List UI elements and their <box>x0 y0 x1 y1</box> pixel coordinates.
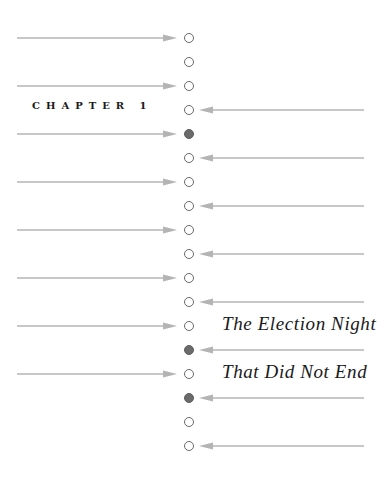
timeline-row <box>0 146 386 170</box>
timeline-row <box>0 410 386 434</box>
open-circle-icon <box>184 369 194 379</box>
arrow-right-icon <box>17 33 177 43</box>
timeline-row <box>0 386 386 410</box>
chapter-title-line-1: The Election Night <box>222 313 376 335</box>
open-circle-icon <box>184 81 194 91</box>
arrow-left-icon <box>199 201 364 211</box>
filled-circle-icon <box>184 129 194 139</box>
arrow-right-icon <box>17 273 177 283</box>
timeline-row <box>0 74 386 98</box>
arrow-right-icon <box>17 129 177 139</box>
timeline-row <box>0 218 386 242</box>
arrow-right-icon <box>17 369 177 379</box>
timeline-row <box>0 194 386 218</box>
arrow-left-icon <box>199 297 364 307</box>
open-circle-icon <box>184 225 194 235</box>
arrow-left-icon <box>199 345 364 355</box>
open-circle-icon <box>184 273 194 283</box>
arrow-right-icon <box>17 81 177 91</box>
open-circle-icon <box>184 321 194 331</box>
open-circle-icon <box>184 201 194 211</box>
open-circle-icon <box>184 33 194 43</box>
filled-circle-icon <box>184 345 194 355</box>
timeline-row <box>0 338 386 362</box>
filled-circle-icon <box>184 393 194 403</box>
arrow-left-icon <box>199 105 364 115</box>
open-circle-icon <box>184 441 194 451</box>
timeline-row <box>0 266 386 290</box>
chapter-label: CHAPTER 1 <box>32 100 153 111</box>
timeline-row <box>0 290 386 314</box>
timeline-row <box>0 242 386 266</box>
timeline-row <box>0 170 386 194</box>
open-circle-icon <box>184 105 194 115</box>
timeline-row <box>0 434 386 458</box>
arrow-right-icon <box>17 321 177 331</box>
arrow-left-icon <box>199 393 364 403</box>
open-circle-icon <box>184 249 194 259</box>
arrow-right-icon <box>17 177 177 187</box>
arrow-right-icon <box>17 225 177 235</box>
open-circle-icon <box>184 153 194 163</box>
chapter-title-line-2: That Did Not End <box>222 361 367 383</box>
timeline-row <box>0 50 386 74</box>
open-circle-icon <box>184 297 194 307</box>
arrow-left-icon <box>199 441 364 451</box>
open-circle-icon <box>184 417 194 427</box>
timeline-row <box>0 26 386 50</box>
open-circle-icon <box>184 57 194 67</box>
arrow-left-icon <box>199 249 364 259</box>
arrow-left-icon <box>199 153 364 163</box>
timeline-row <box>0 122 386 146</box>
open-circle-icon <box>184 177 194 187</box>
